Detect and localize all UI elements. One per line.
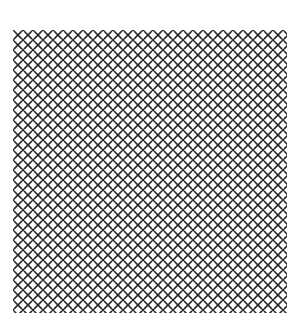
pattern-swatch (13, 30, 287, 313)
pattern-canvas (0, 0, 298, 321)
